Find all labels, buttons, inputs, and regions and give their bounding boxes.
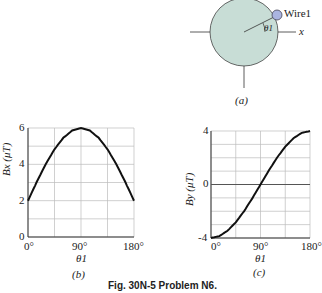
b-xtick-90: 90°	[72, 240, 87, 252]
plot-bx	[28, 128, 134, 237]
panel-a-label: (a)	[235, 94, 248, 106]
b-ytick-6: 6	[19, 121, 25, 133]
b-xtick-0: 0°	[24, 240, 34, 252]
panel-b-label: (b)	[72, 268, 85, 280]
x-axis-label: x	[299, 25, 304, 37]
c-ytick-4: 4	[203, 124, 209, 136]
panel-c-label: (c)	[253, 266, 265, 278]
c-xtick-180: 180°	[301, 240, 322, 252]
plot-by	[211, 131, 310, 238]
wire-label: Wire1	[284, 7, 311, 19]
angle-label: θ1	[264, 23, 273, 33]
b-xtick-180: 180°	[123, 240, 144, 252]
b-xlabel: θ1	[76, 252, 87, 264]
c-ytick-neg4: -4	[198, 231, 207, 243]
b-ytick-4: 4	[19, 157, 25, 169]
c-xtick-0: 0°	[211, 240, 221, 252]
c-xtick-90: 90°	[253, 240, 268, 252]
b-ytick-2: 2	[19, 194, 25, 206]
b-ylabel: Bx (μT)	[0, 143, 12, 176]
c-ytick-0: 0	[203, 177, 209, 189]
figure-caption: Fig. 30N-5 Problem N6.	[108, 280, 217, 291]
c-xlabel: θ1	[255, 252, 266, 264]
c-ylabel: By (μT)	[183, 173, 195, 206]
